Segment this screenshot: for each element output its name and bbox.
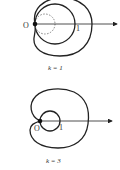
unit-label: 1 [59,123,63,132]
k-label: k = 1 [48,64,63,72]
origin-dot [33,22,38,27]
figure-k3: O 1 k = 3 [30,89,112,165]
origin-dot [38,119,43,124]
origin-label: O [34,124,40,133]
k-label: k = 3 [46,157,61,165]
unit-label: 1 [76,24,80,33]
figure-k1: O 1 k = 1 [23,0,117,72]
polar-curves-diagram: O 1 k = 1 O 1 k = 3 [0,0,120,170]
origin-label: O [23,21,29,30]
